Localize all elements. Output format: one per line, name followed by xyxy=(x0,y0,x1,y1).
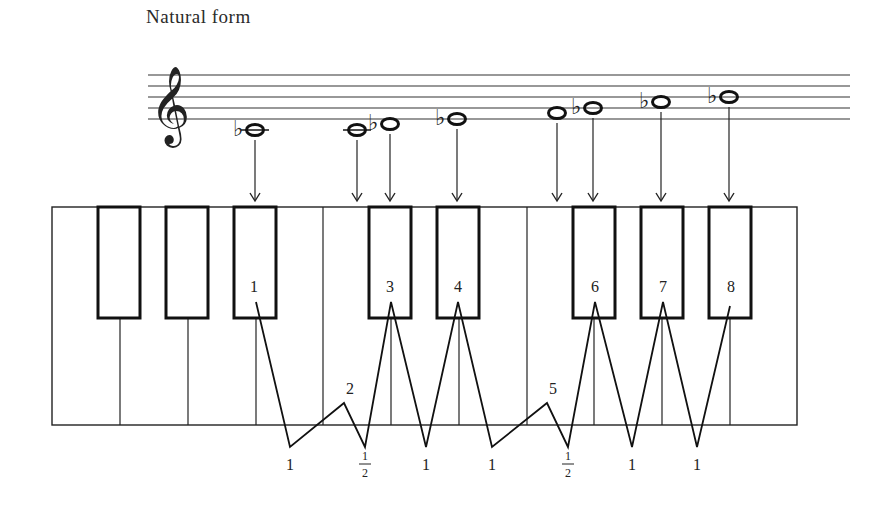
interval-whole-step: 1 xyxy=(286,456,294,473)
scale-degree-8: 8 xyxy=(727,278,735,295)
note-Db4: ♭ xyxy=(368,110,399,135)
black-key xyxy=(641,207,683,318)
black-key xyxy=(369,207,411,318)
keyboard-outline xyxy=(52,207,797,425)
black-key xyxy=(573,207,615,318)
scale-degree-5: 5 xyxy=(549,380,557,397)
flat-icon: ♭ xyxy=(368,110,378,135)
interval-step-labels: 112111211 xyxy=(286,449,701,480)
black-key xyxy=(234,207,276,318)
scale-diagram: Natural form 𝄞 ♭♭♭♭♭♭ 12345678 112111211 xyxy=(0,0,893,517)
interval-whole-step: 1 xyxy=(422,456,430,473)
flat-icon: ♭ xyxy=(233,116,243,141)
arrow-icon xyxy=(452,129,462,201)
arrow-icon xyxy=(352,140,362,201)
note-Ab4: ♭ xyxy=(639,88,670,113)
note-to-key-arrows xyxy=(250,107,734,201)
note-Eb4: ♭ xyxy=(435,105,466,130)
scale-degree-3: 3 xyxy=(386,278,394,295)
whole-note-head xyxy=(382,119,399,130)
flat-icon: ♭ xyxy=(435,105,445,130)
interval-half-step: 12 xyxy=(562,449,574,480)
whole-note-head xyxy=(549,108,566,119)
black-key xyxy=(709,207,751,318)
arrow-icon xyxy=(588,118,598,201)
keyboard-scale-figure: 𝄞 ♭♭♭♭♭♭ 12345678 112111211 xyxy=(0,0,893,517)
arrow-icon xyxy=(385,134,395,201)
scale-degree-1: 1 xyxy=(250,278,258,295)
note-F4 xyxy=(549,108,566,119)
scale-degree-7: 7 xyxy=(659,278,667,295)
interval-whole-step: 1 xyxy=(693,456,701,473)
flat-icon: ♭ xyxy=(571,94,581,119)
whole-note-head xyxy=(653,97,670,108)
arrow-icon xyxy=(552,123,562,201)
svg-text:1: 1 xyxy=(362,449,368,463)
piano-keyboard xyxy=(52,207,797,425)
black-key xyxy=(437,207,479,318)
svg-text:2: 2 xyxy=(362,466,368,480)
arrow-icon xyxy=(656,112,666,201)
scale-degree-6: 6 xyxy=(591,278,599,295)
music-staff xyxy=(148,75,850,119)
interval-whole-step: 1 xyxy=(628,456,636,473)
flat-icon: ♭ xyxy=(639,88,649,113)
arrow-icon xyxy=(250,140,260,201)
scale-degree-2: 2 xyxy=(346,380,354,397)
note-Gb4: ♭ xyxy=(571,94,602,119)
svg-text:2: 2 xyxy=(565,466,571,480)
scale-notes: ♭♭♭♭♭♭ xyxy=(233,83,738,141)
note-Bb3: ♭ xyxy=(233,116,269,141)
treble-clef-icon: 𝄞 xyxy=(150,65,190,148)
svg-text:𝄞: 𝄞 xyxy=(150,65,190,148)
scale-degree-4: 4 xyxy=(454,278,462,295)
arrow-icon xyxy=(724,107,734,201)
svg-text:1: 1 xyxy=(565,449,571,463)
black-key xyxy=(166,207,208,318)
interval-half-step: 12 xyxy=(359,449,371,480)
note-Bb4: ♭ xyxy=(707,83,738,108)
black-key xyxy=(98,207,140,318)
note-C4 xyxy=(343,125,371,136)
interval-whole-step: 1 xyxy=(488,456,496,473)
flat-icon: ♭ xyxy=(707,83,717,108)
